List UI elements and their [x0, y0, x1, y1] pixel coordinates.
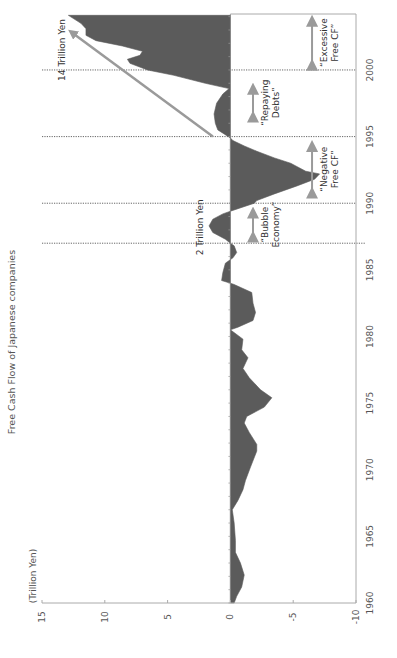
area-series	[68, 15, 319, 603]
value-tick-label: 0	[225, 614, 235, 620]
year-tick-label: 2000	[365, 58, 375, 81]
period-label-line2: Debts”	[271, 87, 281, 118]
year-tick-label: 1965	[365, 525, 375, 548]
period-label-line1: “Bubble	[260, 206, 270, 242]
period-label-line1: “Excessive	[319, 18, 329, 67]
value-tick-label: -10	[351, 609, 361, 624]
value-tick-label: 15	[37, 611, 47, 622]
value-tick-label: 10	[100, 611, 110, 623]
period-label-line1: “Repaying	[260, 79, 270, 125]
year-tick-label: 1995	[365, 125, 375, 148]
year-tick-label: 1990	[365, 192, 375, 215]
value-tick-label: 5	[163, 614, 173, 620]
axes	[42, 14, 356, 603]
year-tick-label: 1985	[365, 258, 375, 281]
year-tick-label: 1960	[365, 591, 375, 614]
year-tick-label: 1975	[365, 392, 375, 415]
value-tick-label: -5	[288, 613, 298, 622]
y-axis-label: (Trillion Yen)	[28, 549, 38, 604]
annotation-label: 14 Trillion Yen	[57, 19, 67, 81]
period-label-line1: “Negative	[319, 146, 329, 192]
free-cash-flow-chart: 151050-5-1019601965197019751980198519901…	[0, 0, 397, 658]
tick-labels: 151050-5-1019601965197019751980198519901…	[37, 58, 375, 624]
chart-title: Free Cash Flow of Japanese companies	[6, 250, 17, 434]
annotation-label: 2 Trillion Yen	[195, 199, 205, 255]
year-tick-label: 1970	[365, 458, 375, 481]
area-free-cash-flow	[68, 15, 319, 603]
period-label-line2: Free CF”	[330, 24, 340, 62]
period-label-line2: Free CF”	[330, 150, 340, 188]
year-tick-label: 1980	[365, 325, 375, 348]
period-label-line2: Economy”	[271, 201, 281, 247]
